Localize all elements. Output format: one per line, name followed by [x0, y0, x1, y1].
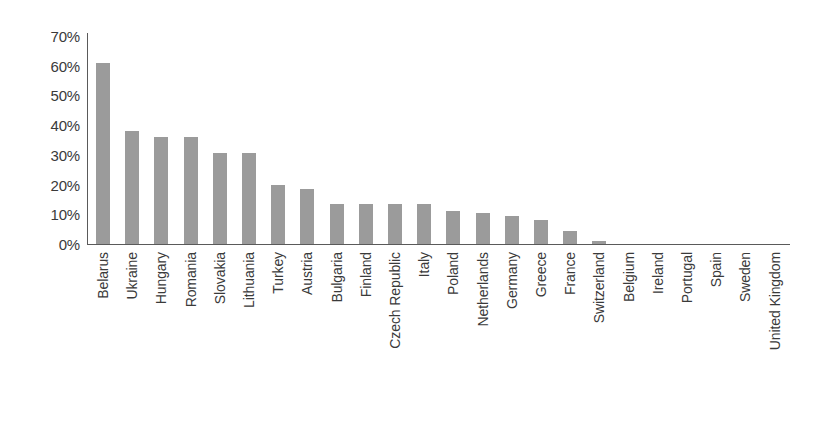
- y-tick-label: 60%: [28, 59, 80, 74]
- bar: [330, 204, 344, 244]
- x-label-slot: Ireland: [643, 248, 673, 423]
- x-tick-label: Ukraine: [125, 252, 139, 300]
- x-label-slot: Romania: [176, 248, 206, 423]
- x-label-slot: Ukraine: [117, 248, 147, 423]
- y-tick-label: 40%: [28, 118, 80, 133]
- x-label-slot: Germany: [497, 248, 527, 423]
- x-label-slot: Bulgaria: [322, 248, 352, 423]
- y-tick-label: 10%: [28, 207, 80, 222]
- bar-slot: [351, 36, 381, 244]
- plot-area: [88, 36, 790, 244]
- bar-slot: [88, 36, 118, 244]
- x-tick-label: Finland: [359, 252, 373, 297]
- x-axis-category-labels: BelarusUkraineHungaryRomaniaSlovakiaLith…: [88, 248, 790, 423]
- x-tick-label: Czech Republic: [388, 252, 402, 349]
- x-tick-label: Bulgaria: [330, 252, 344, 303]
- x-tick-label: Spain: [709, 252, 723, 287]
- x-tick-label: Italy: [417, 252, 431, 277]
- x-label-slot: Lithuania: [234, 248, 264, 423]
- bar: [300, 189, 314, 244]
- y-tick-label: 50%: [28, 88, 80, 103]
- x-label-slot: Portugal: [672, 248, 702, 423]
- x-label-slot: Belgium: [614, 248, 644, 423]
- bar: [242, 153, 256, 244]
- bar-slot: [438, 36, 468, 244]
- bar-slot: [322, 36, 352, 244]
- bar: [563, 231, 577, 244]
- bar: [96, 63, 110, 244]
- bar-slot: [263, 36, 293, 244]
- bar: [213, 153, 227, 244]
- bar-slot: [526, 36, 556, 244]
- x-tick-label: Portugal: [680, 252, 694, 303]
- y-tick-label: 70%: [28, 29, 80, 44]
- y-tick-label: 20%: [28, 178, 80, 193]
- x-tick-label: Switzerland: [592, 252, 606, 323]
- bar-chart: 70%60%50%40%30%20%10%0% BelarusUkraineHu…: [0, 0, 813, 427]
- x-label-slot: France: [555, 248, 585, 423]
- bar: [592, 241, 606, 244]
- y-tick-label: 30%: [28, 148, 80, 163]
- bar: [534, 220, 548, 244]
- bar: [446, 211, 460, 244]
- x-label-slot: Czech Republic: [380, 248, 410, 423]
- x-tick-label: United Kingdom: [768, 252, 782, 350]
- x-label-slot: Slovakia: [205, 248, 235, 423]
- bar-slot: [643, 36, 673, 244]
- x-label-slot: Spain: [701, 248, 731, 423]
- bar: [417, 204, 431, 244]
- x-tick-label: Lithuania: [242, 252, 256, 308]
- x-tick-label: Netherlands: [476, 252, 490, 326]
- bar-slot: [409, 36, 439, 244]
- bar-slot: [672, 36, 702, 244]
- bar: [154, 137, 168, 244]
- x-tick-label: Germany: [505, 252, 519, 309]
- bar-slot: [146, 36, 176, 244]
- x-axis-line: [87, 244, 790, 245]
- bar: [505, 216, 519, 244]
- bar-slot: [234, 36, 264, 244]
- x-tick-label: Sweden: [738, 252, 752, 302]
- x-label-slot: Poland: [438, 248, 468, 423]
- bar-slot: [760, 36, 790, 244]
- x-label-slot: Finland: [351, 248, 381, 423]
- x-tick-label: Hungary: [154, 252, 168, 304]
- x-tick-label: Ireland: [651, 252, 665, 294]
- y-tick-label: 0%: [28, 237, 80, 252]
- x-label-slot: Netherlands: [468, 248, 498, 423]
- bar-slot: [614, 36, 644, 244]
- x-tick-label: Austria: [300, 252, 314, 295]
- x-tick-label: Romania: [184, 252, 198, 307]
- bar-slot: [584, 36, 614, 244]
- x-label-slot: Sweden: [730, 248, 760, 423]
- x-label-slot: Italy: [409, 248, 439, 423]
- bar: [271, 185, 285, 244]
- bar-slot: [292, 36, 322, 244]
- bar: [125, 131, 139, 244]
- x-tick-label: Greece: [534, 252, 548, 297]
- x-label-slot: Hungary: [146, 248, 176, 423]
- x-tick-label: Turkey: [271, 252, 285, 294]
- bar: [184, 137, 198, 244]
- x-tick-label: Belarus: [96, 252, 110, 299]
- bar-slot: [205, 36, 235, 244]
- bar-slot: [468, 36, 498, 244]
- bar-slot: [730, 36, 760, 244]
- y-axis-tick-labels: 70%60%50%40%30%20%10%0%: [22, 0, 80, 427]
- x-label-slot: Austria: [292, 248, 322, 423]
- bar: [359, 204, 373, 244]
- bar: [476, 213, 490, 244]
- bar-slot: [176, 36, 206, 244]
- bar-slot: [117, 36, 147, 244]
- x-tick-label: Poland: [446, 252, 460, 295]
- x-label-slot: Belarus: [88, 248, 118, 423]
- x-label-slot: Turkey: [263, 248, 293, 423]
- bar: [388, 204, 402, 244]
- x-tick-label: Belgium: [622, 252, 636, 302]
- x-label-slot: Greece: [526, 248, 556, 423]
- x-label-slot: Switzerland: [584, 248, 614, 423]
- bar-slot: [497, 36, 527, 244]
- x-label-slot: United Kingdom: [760, 248, 790, 423]
- x-tick-label: Slovakia: [213, 252, 227, 304]
- bar-slot: [555, 36, 585, 244]
